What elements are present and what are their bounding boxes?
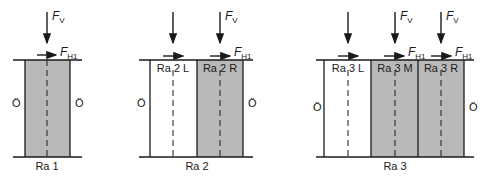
svg-text:FV: FV xyxy=(52,9,65,25)
panel-label-ra3-l: Ra 3 L xyxy=(332,62,364,74)
svg-text:FV: FV xyxy=(400,9,413,25)
outer-side-right: Ö xyxy=(75,97,84,109)
outer-side-left: Ö xyxy=(313,101,322,113)
panel-label-ra3-m: Ra 3 M xyxy=(377,62,412,74)
outer-side-right: Ö xyxy=(469,101,478,113)
svg-text:FH1: FH1 xyxy=(234,45,252,61)
diagram-ra2: FV FH1 Ra 2 L Ra 2 R Ö Ö Ra 2 xyxy=(137,9,257,172)
panel-label-ra2-r: Ra 2 R xyxy=(203,62,237,74)
svg-text:FH1: FH1 xyxy=(408,45,426,61)
svg-text:FV: FV xyxy=(446,9,459,25)
caption-ra2: Ra 2 xyxy=(185,160,208,172)
diagram-canvas: FV FH1 Ö Ö Ra 1 FV FH1 Ra 2 L Ra 2 R Ö Ö… xyxy=(0,0,487,179)
diagram-ra1: FV FH1 Ö Ö Ra 1 xyxy=(12,9,84,172)
outer-side-left: Ö xyxy=(137,97,146,109)
svg-text:FV: FV xyxy=(225,9,238,25)
panel-label-ra3-r: Ra 3 R xyxy=(424,62,458,74)
panel-label-ra2-l: Ra 2 L xyxy=(157,62,189,74)
outer-side-left: Ö xyxy=(12,97,21,109)
outer-side-right: Ö xyxy=(248,97,257,109)
caption-ra3: Ra 3 xyxy=(383,160,406,172)
diagram-ra3: FV FV FH1 FH1 Ra 3 L Ra 3 M Ra 3 R Ö Ö R… xyxy=(313,9,478,172)
svg-text:FH1: FH1 xyxy=(455,45,473,61)
svg-text:FH1: FH1 xyxy=(60,45,78,61)
caption-ra1: Ra 1 xyxy=(35,160,58,172)
